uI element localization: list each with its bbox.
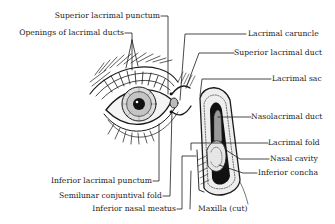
- pupil: [133, 98, 145, 110]
- label-nasolacrimal-duct: Nasolacrimal duct: [251, 112, 322, 121]
- label-superior-lacrimal-duct: Superior lacrimal duct: [234, 48, 322, 57]
- label-lacrimal-sac: Lacrimal sac: [272, 74, 322, 83]
- nasolacrimal-duct: [214, 110, 222, 145]
- label-inferior-nasal-meatus: Inferior nasal meatus: [56, 204, 176, 213]
- label-openings-of-lacrimal-ducts: Openings of lacrimal ducts: [4, 28, 124, 37]
- inferior-concha: [207, 141, 226, 172]
- lacrimal-apparatus-diagram: Superior lacrimal punctum Openings of la…: [0, 0, 335, 224]
- label-lacrimal-fold: Lacrimal fold: [268, 138, 320, 147]
- label-lacrimal-caruncle: Lacrimal caruncle: [248, 29, 319, 38]
- caruncle: [170, 98, 178, 108]
- label-inferior-concha: Inferior concha: [258, 168, 318, 177]
- label-semilunar-conjuntival-fold: Semilunar conjuntival fold: [32, 191, 162, 200]
- lower-eyelashes: [108, 124, 154, 144]
- label-nasal-cavity: Nasal cavity: [270, 154, 318, 163]
- label-inferior-lacrimal-punctum: Inferior lacrimal punctum: [32, 176, 152, 185]
- label-superior-lacrimal-punctum: Superior lacrimal punctum: [40, 11, 160, 20]
- label-maxilla-cut: Maxilla (cut): [198, 204, 248, 213]
